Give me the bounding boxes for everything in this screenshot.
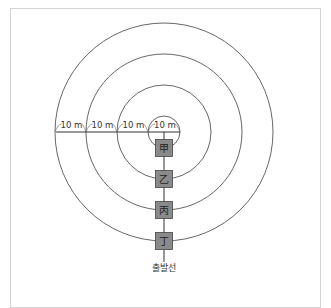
runner-label: 乙: [159, 174, 169, 185]
runner-label: 丁: [159, 236, 169, 247]
runner-box: 乙: [156, 171, 173, 188]
runner-label: 甲: [159, 143, 169, 154]
start-line-label: 출발선: [152, 263, 176, 273]
distance-label: 10 m: [123, 120, 145, 130]
distance-label: 10 m: [154, 120, 176, 130]
distance-label: 10 m: [92, 120, 114, 130]
runner-box: 丙: [156, 202, 173, 219]
runner-box: 甲: [156, 140, 173, 157]
runner-label: 丙: [159, 205, 169, 216]
runner-box: 丁: [156, 233, 173, 250]
distance-label: 10 m: [61, 120, 83, 130]
